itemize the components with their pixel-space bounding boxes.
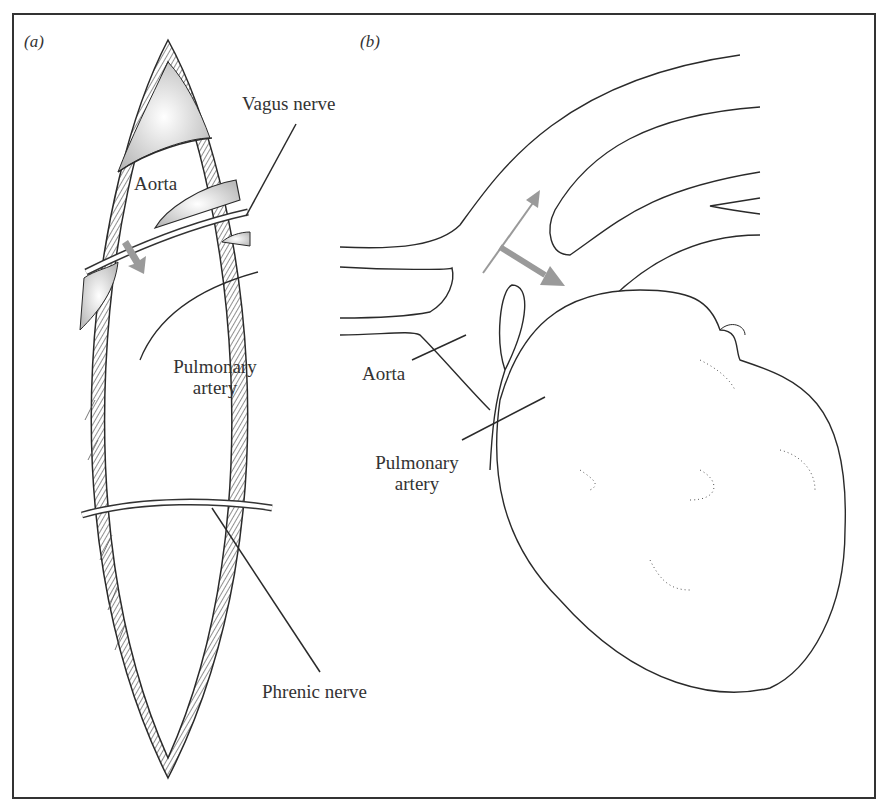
panel-label-a: (a) (24, 32, 44, 52)
label-pulmonary-artery-b-line1: Pulmonary (362, 453, 472, 473)
label-pulmonary-artery-a-line1: Pulmonary (160, 357, 270, 377)
label-phrenic-nerve: Phrenic nerve (262, 682, 367, 702)
panel-b-heart (340, 55, 845, 692)
panel-label-b: (b) (360, 32, 380, 52)
panel-b-arrows (483, 190, 565, 286)
label-aorta-b: Aorta (362, 364, 405, 384)
label-aorta-a: Aorta (134, 174, 177, 194)
label-pulmonary-artery-a-line2: artery (160, 378, 270, 398)
label-pulmonary-artery-b-line2: artery (362, 474, 472, 494)
panel-a-incision (80, 40, 272, 778)
label-vagus-nerve: Vagus nerve (242, 94, 335, 114)
illustration (0, 0, 890, 811)
